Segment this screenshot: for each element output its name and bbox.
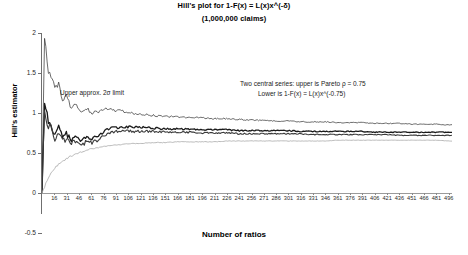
annotation-central-series-line2: Lower is 1-F(x) = L(x)x^(-0.75) — [258, 90, 345, 97]
plot-area — [42, 33, 452, 193]
x-tick-label: 166 — [173, 195, 182, 201]
x-tick-label: 271 — [259, 195, 268, 201]
x-tick-label: 91 — [113, 195, 119, 201]
x-tick-label: 346 — [321, 195, 330, 201]
x-tick-label: 451 — [407, 195, 416, 201]
x-tick-mark — [313, 193, 314, 195]
series-lines — [42, 33, 452, 193]
chart-subtitle: (1,000,000 claims) — [0, 14, 468, 23]
x-tick-mark — [399, 193, 400, 195]
x-tick-mark — [91, 193, 92, 195]
x-tick-label: 436 — [395, 195, 404, 201]
x-axis-title: Number of ratios — [0, 230, 468, 239]
x-tick-mark — [288, 193, 289, 195]
x-tick-mark — [449, 193, 450, 195]
x-tick-label: 316 — [296, 195, 305, 201]
x-tick-mark — [178, 193, 179, 195]
x-tick-mark — [424, 193, 425, 195]
x-tick-mark — [79, 193, 80, 195]
x-tick-mark — [264, 193, 265, 195]
x-tick-label: 181 — [185, 195, 194, 201]
y-tick-label: 1.5 — [8, 69, 36, 76]
x-tick-label: 331 — [308, 195, 317, 201]
series-line — [42, 140, 452, 193]
x-tick-mark — [436, 193, 437, 195]
series-line — [42, 103, 452, 192]
x-tick-mark — [276, 193, 277, 195]
x-tick-label: 361 — [333, 195, 342, 201]
chart-title: Hill's plot for 1-F(x) = L(x)x^(-δ) — [0, 1, 468, 10]
x-tick-mark — [227, 193, 228, 195]
x-tick-mark — [165, 193, 166, 195]
x-tick-mark — [375, 193, 376, 195]
annotation-central-series-line1: Two central series: upper is Pareto ρ = … — [240, 80, 366, 87]
x-tick-mark — [116, 193, 117, 195]
x-tick-mark — [387, 193, 388, 195]
x-tick-mark — [153, 193, 154, 195]
x-tick-label: 376 — [345, 195, 354, 201]
x-tick-label: 136 — [148, 195, 157, 201]
x-tick-mark — [252, 193, 253, 195]
y-tick-label: 0.5 — [8, 149, 36, 156]
x-tick-label: 496 — [444, 195, 453, 201]
x-tick-mark — [215, 193, 216, 195]
x-tick-mark — [190, 193, 191, 195]
x-tick-label: 31 — [64, 195, 70, 201]
x-tick-label: 46 — [76, 195, 82, 201]
x-tick-mark — [412, 193, 413, 195]
x-tick-label: 391 — [358, 195, 367, 201]
y-tick-label: 1 — [8, 109, 36, 116]
x-tick-mark — [104, 193, 105, 195]
x-tick-label: 286 — [271, 195, 280, 201]
x-tick-label: 466 — [419, 195, 428, 201]
chart-root: Hill's plot for 1-F(x) = L(x)x^(-δ) (1,0… — [0, 0, 468, 255]
x-tick-mark — [54, 193, 55, 195]
annotation-sigma-limit: Upper approx. 2σ limit — [60, 89, 124, 96]
x-tick-label: 196 — [198, 195, 207, 201]
x-tick-mark — [239, 193, 240, 195]
x-tick-label: 106 — [124, 195, 133, 201]
x-tick-label: 151 — [161, 195, 170, 201]
x-tick-mark — [338, 193, 339, 195]
x-tick-mark — [362, 193, 363, 195]
x-tick-mark — [128, 193, 129, 195]
x-tick-mark — [301, 193, 302, 195]
series-line — [42, 38, 452, 191]
y-tick-label: 2 — [8, 29, 36, 36]
x-tick-label: 481 — [432, 195, 441, 201]
y-tick-label: 0 — [8, 189, 36, 196]
x-axis-ticks: 1631466176911061211361511661811962112262… — [42, 195, 452, 207]
x-tick-label: 61 — [88, 195, 94, 201]
x-tick-label: 301 — [284, 195, 293, 201]
y-tick-mark — [38, 193, 42, 194]
x-tick-label: 76 — [100, 195, 106, 201]
y-tick-label: -0.5 — [8, 229, 36, 236]
x-tick-label: 226 — [222, 195, 231, 201]
x-tick-label: 256 — [247, 195, 256, 201]
x-tick-mark — [350, 193, 351, 195]
x-tick-mark — [325, 193, 326, 195]
x-tick-mark — [141, 193, 142, 195]
x-tick-label: 121 — [136, 195, 145, 201]
x-tick-label: 16 — [51, 195, 57, 201]
x-tick-mark — [67, 193, 68, 195]
x-tick-label: 406 — [370, 195, 379, 201]
x-tick-label: 211 — [210, 195, 219, 201]
x-tick-label: 241 — [235, 195, 244, 201]
x-tick-label: 421 — [382, 195, 391, 201]
x-tick-mark — [202, 193, 203, 195]
y-tick-mark — [38, 233, 42, 234]
